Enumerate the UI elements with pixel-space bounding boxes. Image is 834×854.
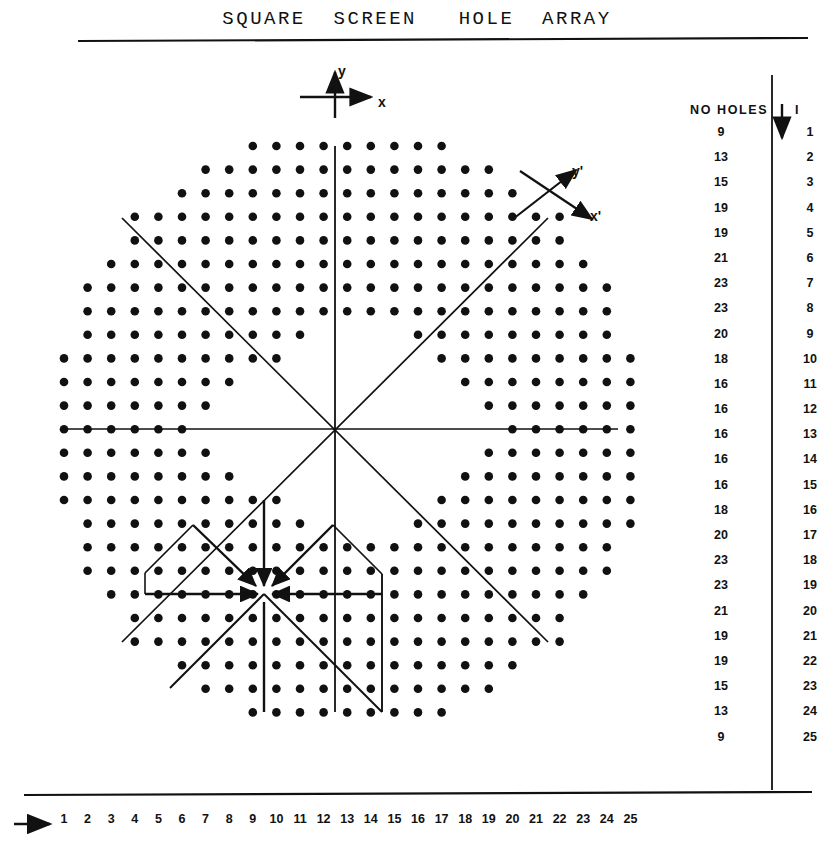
- hole-dot: [343, 165, 352, 174]
- table-cell-holes: 20: [690, 523, 752, 548]
- hole-dot: [249, 496, 258, 505]
- hole-dot: [461, 637, 470, 646]
- hole-dot: [555, 496, 564, 505]
- hole-dot: [343, 661, 352, 670]
- hole-dot: [437, 543, 446, 552]
- hole-dot: [319, 142, 328, 151]
- column-scale-label: 3: [108, 812, 115, 826]
- hole-dot: [60, 401, 69, 410]
- column-scale-label: 22: [553, 812, 567, 826]
- hole-dot: [131, 519, 140, 528]
- hole-dot: [414, 543, 423, 552]
- hole-dot: [319, 685, 328, 694]
- hole-dot: [461, 685, 470, 694]
- hole-dot: [485, 496, 494, 505]
- hole-dot: [296, 614, 305, 623]
- hole-dot: [626, 378, 635, 387]
- hole-dot: [249, 307, 258, 316]
- hole-dot: [555, 614, 564, 623]
- secondary-diag-ne: [272, 525, 333, 586]
- hole-dot: [414, 331, 423, 340]
- hole-dot: [367, 236, 376, 245]
- hole-dot: [414, 519, 423, 528]
- hole-dot: [319, 543, 328, 552]
- hole-dot: [461, 354, 470, 363]
- hole-dot: [508, 189, 517, 198]
- hole-dot: [508, 260, 517, 269]
- hole-dot: [201, 236, 210, 245]
- hole-dot: [272, 496, 281, 505]
- hole-dot: [626, 401, 635, 410]
- hole-dot: [178, 567, 187, 576]
- hole-dot: [414, 283, 423, 292]
- hole-dot: [508, 590, 517, 599]
- hole-dot: [131, 496, 140, 505]
- hole-dot: [201, 354, 210, 363]
- table-cell-holes: 19: [690, 196, 752, 221]
- hole-dot: [83, 354, 92, 363]
- hole-dot: [437, 519, 446, 528]
- hole-dot: [555, 260, 564, 269]
- hole-dot: [603, 496, 612, 505]
- hole-dot: [390, 685, 399, 694]
- table-cell-holes: 13: [690, 145, 752, 170]
- column-scale-label: 20: [505, 812, 519, 826]
- table-cell-index: 16: [790, 498, 830, 523]
- hole-dot: [343, 567, 352, 576]
- hole-dot: [319, 614, 328, 623]
- hole-dot: [319, 189, 328, 198]
- hole-dot: [249, 519, 258, 528]
- hole-dot: [319, 165, 328, 174]
- table-header-no-holes: NO HOLES: [690, 103, 768, 117]
- hole-dot: [343, 236, 352, 245]
- hole-dot: [508, 378, 517, 387]
- hole-dot: [532, 519, 541, 528]
- hole-dot: [249, 165, 258, 174]
- hole-dot: [83, 496, 92, 505]
- hole-dot: [225, 331, 234, 340]
- hole-dot: [154, 378, 163, 387]
- hole-dot: [201, 661, 210, 670]
- hole-dot: [555, 567, 564, 576]
- hole-dot: [272, 142, 281, 151]
- hole-dot: [579, 307, 588, 316]
- hole-dot: [201, 331, 210, 340]
- hole-dot: [437, 213, 446, 222]
- hole-dot: [296, 519, 305, 528]
- hole-dot: [225, 637, 234, 646]
- hole-dot: [603, 472, 612, 481]
- hole-dot: [367, 543, 376, 552]
- hole-dot: [414, 213, 423, 222]
- table-cell-holes: 19: [690, 624, 752, 649]
- table-cell-index: 3: [790, 170, 830, 195]
- column-scale-label: 10: [269, 812, 283, 826]
- hole-dot: [201, 307, 210, 316]
- hole-dot: [154, 213, 163, 222]
- hole-dot: [367, 661, 376, 670]
- table-cell-holes: 16: [690, 372, 752, 397]
- hole-dot: [178, 472, 187, 481]
- hole-dot: [343, 685, 352, 694]
- hole-dot: [131, 543, 140, 552]
- hole-dot: [343, 283, 352, 292]
- table-cell-index: 21: [790, 624, 830, 649]
- column-scale-label: 4: [131, 812, 138, 826]
- table-cell-holes: 13: [690, 699, 752, 724]
- hole-dot: [178, 661, 187, 670]
- hole-dot: [485, 260, 494, 269]
- column-scale-label: 7: [202, 812, 209, 826]
- hole-dot: [626, 425, 635, 434]
- hole-dot: [178, 331, 187, 340]
- column-scale-label: 13: [340, 812, 354, 826]
- hole-dot: [225, 260, 234, 269]
- hole-dot: [225, 236, 234, 245]
- hole-dot: [272, 519, 281, 528]
- hole-dot: [225, 567, 234, 576]
- hole-dot: [131, 260, 140, 269]
- table-column-index: 1234567891011121314151617181920212223242…: [790, 120, 830, 750]
- hole-dot: [508, 637, 517, 646]
- hole-dot: [225, 543, 234, 552]
- hole-dot: [437, 637, 446, 646]
- hole-dot: [131, 401, 140, 410]
- hole-dot: [178, 637, 187, 646]
